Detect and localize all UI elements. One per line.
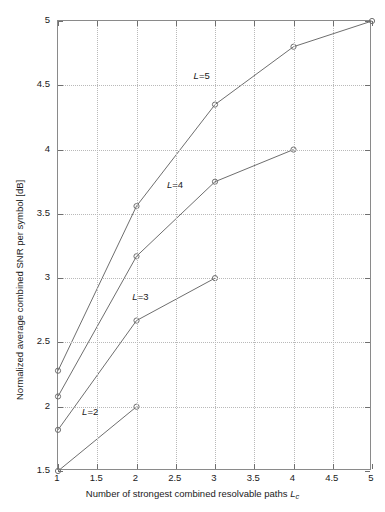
x-tick-label: 2.5 (155, 472, 195, 483)
y-tick (58, 214, 63, 215)
x-tick-label: 1.5 (76, 472, 116, 483)
gridline-horizontal (58, 150, 370, 151)
x-tick-top (176, 21, 177, 26)
gridline-vertical (97, 21, 98, 469)
x-tick (58, 464, 59, 469)
x-tick (254, 464, 255, 469)
x-tick-label: 3.5 (233, 472, 273, 483)
series-annotation-value: =4 (172, 179, 183, 190)
gridline-horizontal (58, 85, 370, 86)
y-tick-right (365, 278, 370, 279)
x-tick-label: 4 (273, 472, 313, 483)
y-tick-right (365, 342, 370, 343)
y-tick-right (365, 407, 370, 408)
plot-area (57, 20, 371, 470)
x-tick (333, 464, 334, 469)
x-tick-label: 2 (116, 472, 156, 483)
x-tick-top (333, 21, 334, 26)
series-annotation-L2: L=2 (82, 406, 98, 417)
y-tick-label: 2.5 (20, 335, 50, 346)
y-tick-right (365, 214, 370, 215)
y-tick-label: 3.5 (20, 207, 50, 218)
gridline-vertical (137, 21, 138, 469)
x-tick (215, 464, 216, 469)
x-tick (372, 464, 373, 469)
y-tick-label: 5 (20, 14, 50, 25)
x-tick-top (215, 21, 216, 26)
x-tick-top (137, 21, 138, 26)
y-tick-right (365, 21, 370, 22)
gridline-vertical (254, 21, 255, 469)
gridline-horizontal (58, 214, 370, 215)
x-axis-title-main: Number of strongest combined resolvable … (86, 488, 290, 499)
y-tick-label: 3 (20, 271, 50, 282)
y-tick-label: 2 (20, 400, 50, 411)
y-tick (58, 21, 63, 22)
x-tick-label: 5 (351, 472, 385, 483)
x-tick-top (294, 21, 295, 26)
y-tick (58, 407, 63, 408)
y-tick (58, 85, 63, 86)
y-tick-label: 4.5 (20, 78, 50, 89)
x-tick-top (97, 21, 98, 26)
x-tick-label: 4.5 (312, 472, 352, 483)
gridline-horizontal (58, 407, 370, 408)
series-annotation-value: =5 (199, 70, 210, 81)
y-tick (58, 150, 63, 151)
x-tick (294, 464, 295, 469)
series-annotation-value: =2 (87, 406, 98, 417)
x-tick (137, 464, 138, 469)
figure: Normalized average combined SNR per symb… (0, 0, 385, 512)
series-annotation-L4: L=4 (167, 179, 183, 190)
y-tick (58, 278, 63, 279)
x-tick-top (372, 21, 373, 26)
gridline-vertical (215, 21, 216, 469)
x-tick (97, 464, 98, 469)
x-axis-title: Number of strongest combined resolvable … (0, 488, 385, 501)
gridline-vertical (294, 21, 295, 469)
y-tick (58, 342, 63, 343)
gridline-horizontal (58, 278, 370, 279)
y-tick-label: 1.5 (20, 464, 50, 475)
gridline-vertical (176, 21, 177, 469)
y-tick-label: 4 (20, 143, 50, 154)
y-tick-right (365, 150, 370, 151)
series-annotation-L3: L=3 (132, 291, 148, 302)
x-axis-title-subscript: c (295, 492, 299, 501)
x-tick-label: 3 (194, 472, 234, 483)
series-annotation-value: =3 (138, 291, 149, 302)
series-annotation-L5: L=5 (194, 70, 210, 81)
gridline-vertical (333, 21, 334, 469)
y-tick-right (365, 85, 370, 86)
gridline-horizontal (58, 342, 370, 343)
x-tick (176, 464, 177, 469)
x-tick-top (254, 21, 255, 26)
